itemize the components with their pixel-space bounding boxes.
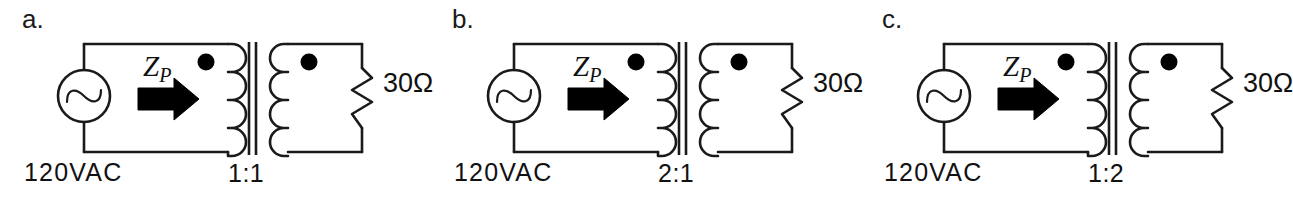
ac-source-sine-icon <box>927 90 961 102</box>
secondary-coil <box>1130 44 1148 156</box>
secondary-polarity-dot-icon <box>731 54 748 71</box>
transformer-core-icon <box>1109 42 1116 155</box>
primary-polarity-dot-icon <box>1058 54 1075 71</box>
primary-impedance-label-b: ZP <box>573 52 601 85</box>
primary-coil <box>658 44 676 156</box>
turns-ratio-label-b: 2:1 <box>658 161 694 186</box>
load-resistance-label-c: 30Ω <box>1243 70 1293 97</box>
circuit-panel-c: c. ZP 120VAC 1:2 30Ω <box>860 0 1291 208</box>
source-voltage-label-a: 120VAC <box>24 160 122 185</box>
primary-impedance-label-a: ZP <box>143 52 171 85</box>
primary-coil <box>1088 44 1106 156</box>
source-voltage-label-c: 120VAC <box>884 160 982 185</box>
impedance-subscript: P <box>1019 64 1031 86</box>
primary-polarity-dot-icon <box>198 54 215 71</box>
panel-label-a: a. <box>22 6 44 32</box>
load-resistance-label-b: 30Ω <box>813 70 863 97</box>
impedance-subscript: P <box>159 64 171 86</box>
primary-impedance-label-c: ZP <box>1003 52 1031 85</box>
secondary-coil <box>700 44 718 156</box>
zigzag-resistor-icon <box>782 68 802 128</box>
load-resistance-label-a: 30Ω <box>383 70 433 97</box>
panel-label-b: b. <box>452 6 474 32</box>
primary-polarity-dot-icon <box>628 54 645 71</box>
source-voltage-label-b: 120VAC <box>454 160 552 185</box>
impedance-symbol: Z <box>573 50 589 82</box>
secondary-polarity-dot-icon <box>1161 54 1178 71</box>
turns-ratio-label-a: 1:1 <box>228 161 264 186</box>
zigzag-resistor-icon <box>1212 68 1232 128</box>
circuit-panel-a: a. ZP 120VAC 1:1 30Ω <box>0 0 431 208</box>
impedance-subscript: P <box>589 64 601 86</box>
circuit-panel-b: b. ZP 120VAC 2:1 30Ω <box>430 0 861 208</box>
impedance-symbol: Z <box>1003 50 1019 82</box>
impedance-symbol: Z <box>143 50 159 82</box>
secondary-coil <box>270 44 288 156</box>
primary-coil <box>228 44 246 156</box>
transformer-core-icon <box>249 42 256 155</box>
ac-source-sine-icon <box>497 90 531 102</box>
secondary-polarity-dot-icon <box>301 54 318 71</box>
turns-ratio-label-c: 1:2 <box>1088 161 1124 186</box>
ac-source-sine-icon <box>67 90 101 102</box>
transformer-core-icon <box>679 42 686 155</box>
panel-label-c: c. <box>882 6 902 32</box>
zigzag-resistor-icon <box>352 68 372 128</box>
